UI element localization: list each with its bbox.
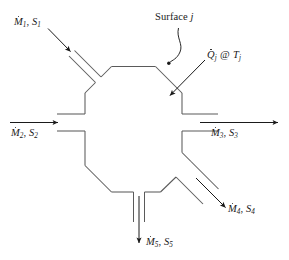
label-surface-index: j [191, 11, 194, 22]
leader-line-surface [170, 28, 181, 63]
label-stream4: M4, S4 [228, 204, 255, 215]
label-stream5: M5, S5 [146, 237, 173, 248]
control-volume-figure: M1, S1 M2, S2 M3, S3 M4, S4 M5, S5 Qj @ … [0, 0, 289, 260]
pipe-stub-stream2 [57, 114, 85, 131]
pipe-stub-stream1 [69, 51, 101, 83]
label-stream3: M3, S3 [211, 128, 238, 139]
control-volume-boundary [85, 67, 191, 193]
label-surface-text: Surface [155, 11, 188, 22]
label-stream2: M2, S2 [11, 128, 38, 139]
pipe-stub-stream4 [176, 162, 219, 205]
arrow-stream4 [196, 178, 226, 208]
arrow-heat-transfer [170, 60, 205, 96]
arrow-stream1 [48, 29, 71, 52]
leader-dot-surface [167, 62, 170, 65]
label-stream1: M1, S1 [14, 17, 41, 28]
figure-drawing [0, 0, 289, 260]
label-surface: Surface j [155, 12, 194, 23]
label-heat-transfer: Qj @ Tj [207, 50, 241, 61]
